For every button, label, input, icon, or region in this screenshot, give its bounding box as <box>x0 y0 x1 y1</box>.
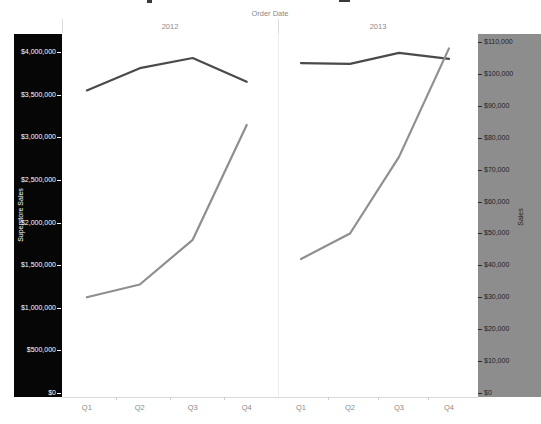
right-axis-tick-label: $60,000 <box>484 198 536 206</box>
right-axis-tick-label: $40,000 <box>484 261 536 269</box>
left-axis-tick-label: $1,000,000 <box>16 304 56 312</box>
right-axis-tick-mark <box>478 393 482 394</box>
tableau-worksheet: Order Date 2012 2013 Superstore Sales Sa… <box>0 0 541 424</box>
right-axis-tick-mark <box>478 106 482 107</box>
left-axis-tick-label: $3,500,000 <box>16 91 56 99</box>
right-axis-title: Sales <box>517 208 524 226</box>
cropped-title-fragment <box>339 0 350 2</box>
left-axis-tick-label: $1,500,000 <box>16 261 56 269</box>
right-axis-band[interactable] <box>478 34 541 397</box>
x-axis-tick-mark <box>328 397 329 400</box>
left-axis-tick-label: $500,000 <box>16 346 56 354</box>
right-axis-tick-label: $70,000 <box>484 166 536 174</box>
right-axis-tick-label: $110,000 <box>484 38 536 46</box>
left-axis-tick-mark <box>57 223 61 224</box>
x-tick-label: Q4 <box>242 403 252 412</box>
left-axis-tick-mark <box>57 393 61 394</box>
x-axis-tick-mark <box>378 397 379 400</box>
x-tick-label: Q2 <box>345 403 355 412</box>
left-axis-tick-mark <box>57 95 61 96</box>
right-axis-tick-label: $90,000 <box>484 102 536 110</box>
panel-divider-line <box>278 33 279 397</box>
x-tick-label: Q1 <box>296 403 306 412</box>
chart-pane-2012[interactable] <box>62 33 278 397</box>
right-axis-tick-label: $10,000 <box>484 357 536 365</box>
right-axis-tick-mark <box>478 170 482 171</box>
x-tick-label: Q2 <box>135 403 145 412</box>
x-axis-tick-mark <box>170 397 171 400</box>
x-axis-tick-mark <box>224 397 225 400</box>
right-axis-tick-label: $80,000 <box>484 134 536 142</box>
left-axis-tick-label: $4,000,000 <box>16 48 56 56</box>
left-axis-tick-mark <box>57 180 61 181</box>
right-axis-tick-mark <box>478 297 482 298</box>
cropped-title-fragment <box>147 0 152 3</box>
right-axis-tick-label: $50,000 <box>484 229 536 237</box>
right-axis-tick-mark <box>478 329 482 330</box>
right-axis-tick-mark <box>478 202 482 203</box>
left-axis-tick-mark <box>57 350 61 351</box>
left-axis-tick-label: $3,000,000 <box>16 133 56 141</box>
x-tick-label: Q3 <box>394 403 404 412</box>
right-axis-tick-mark <box>478 233 482 234</box>
right-axis-tick-mark <box>478 265 482 266</box>
right-axis-tick-mark <box>478 42 482 43</box>
right-axis-tick-mark <box>478 138 482 139</box>
panel-header-2012[interactable]: 2012 <box>62 22 278 31</box>
left-axis-tick-label: $2,500,000 <box>16 176 56 184</box>
right-axis-tick-label: $20,000 <box>484 325 536 333</box>
header-tick <box>62 19 63 33</box>
right-axis-tick-mark <box>478 74 482 75</box>
x-tick-label: Q3 <box>188 403 198 412</box>
chart-pane-2013[interactable] <box>278 33 478 397</box>
left-axis-title: Superstore Sales <box>17 188 24 242</box>
left-axis-tick-mark <box>57 265 61 266</box>
header-tick <box>278 19 279 33</box>
x-axis-tick-mark <box>428 397 429 400</box>
right-axis-tick-label: $30,000 <box>484 293 536 301</box>
left-axis-tick-label: $2,000,000 <box>16 219 56 227</box>
column-field-label: Order Date <box>62 9 478 18</box>
right-axis-tick-label: $0 <box>484 389 536 397</box>
right-axis-tick-label: $100,000 <box>484 70 536 78</box>
left-axis-tick-mark <box>57 52 61 53</box>
panel-header-2013[interactable]: 2013 <box>278 22 478 31</box>
left-axis-tick-mark <box>57 137 61 138</box>
x-axis-tick-mark <box>116 397 117 400</box>
x-tick-label: Q1 <box>82 403 92 412</box>
right-axis-tick-mark <box>478 361 482 362</box>
x-tick-label: Q4 <box>444 403 454 412</box>
left-axis-tick-mark <box>57 308 61 309</box>
left-axis-tick-label: $0 <box>16 389 56 397</box>
